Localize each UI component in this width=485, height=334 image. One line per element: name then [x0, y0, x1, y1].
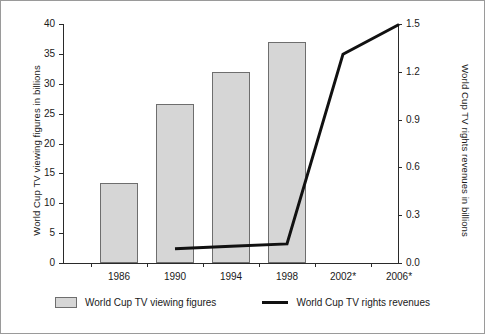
right-tick-label-0: 0.0 [406, 257, 446, 268]
revenue-line-series [63, 24, 398, 264]
right-tick-label-15: 1.5 [406, 18, 446, 29]
legend-square-swatch-icon [55, 297, 77, 308]
chart-legend: World Cup TV viewing figures World Cup T… [1, 297, 484, 308]
legend-item-viewing-figures: World Cup TV viewing figures [55, 297, 216, 308]
right-tick-mark [398, 120, 402, 121]
right-tick-label-03: 0.3 [406, 209, 446, 220]
legend-line-swatch-icon [262, 301, 288, 304]
right-tick-mark [398, 167, 402, 168]
x-axis-label-2006: 2006* [364, 271, 434, 282]
left-tick-label-10: 10 [15, 197, 55, 208]
right-tick-label-06: 0.6 [406, 161, 446, 172]
left-tick-label-25: 25 [15, 108, 55, 119]
right-tick-mark [398, 72, 402, 73]
chart-figure: World Cup TV viewing figures in billions… [0, 0, 485, 334]
left-tick-label-40: 40 [15, 18, 55, 29]
right-axis-spine [398, 24, 399, 264]
right-tick-mark [398, 263, 402, 264]
left-tick-label-0: 0 [15, 257, 55, 268]
right-axis-title: World Cup TV rights revenues in billions [460, 36, 471, 266]
left-tick-label-35: 35 [15, 48, 55, 59]
revenue-line-path [175, 25, 399, 249]
right-tick-label-09: 0.9 [406, 114, 446, 125]
right-tick-mark [398, 215, 402, 216]
legend-label-viewing-figures: World Cup TV viewing figures [85, 297, 216, 308]
left-tick-label-30: 30 [15, 78, 55, 89]
legend-item-rights-revenues: World Cup TV rights revenues [262, 297, 430, 308]
left-tick-label-20: 20 [15, 138, 55, 149]
left-tick-label-15: 15 [15, 167, 55, 178]
plot-area: 0 5 10 15 20 25 30 35 40 0.0 0.3 0.6 0.9… [63, 24, 398, 263]
left-tick-label-5: 5 [15, 227, 55, 238]
right-tick-label-12: 1.2 [406, 66, 446, 77]
legend-label-rights-revenues: World Cup TV rights revenues [296, 297, 430, 308]
